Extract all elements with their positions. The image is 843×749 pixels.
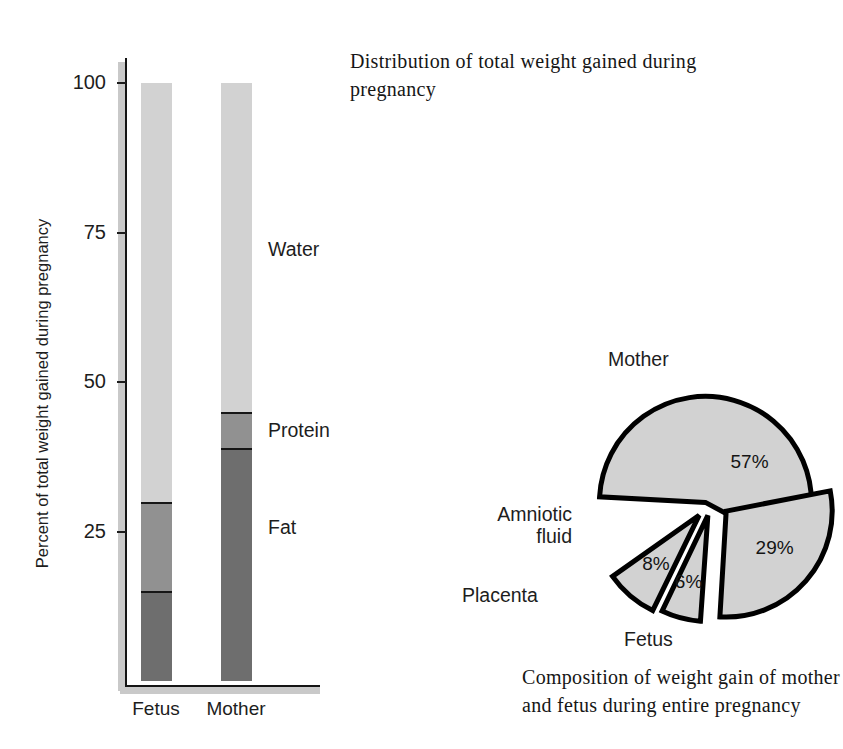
y-tick-label-75: 75 xyxy=(58,222,106,242)
y-tick-mark-75 xyxy=(117,232,126,234)
segment-label-water: Water xyxy=(268,238,319,261)
pie-label-mother: Mother xyxy=(608,348,669,370)
bar-segment-mother-fat xyxy=(221,448,252,681)
pie-value-mother: 57% xyxy=(731,451,769,472)
pie-label-amniotic-fluid: Amniotic fluid xyxy=(440,503,572,548)
x-axis-line xyxy=(125,685,320,687)
pie-value-placenta: 6% xyxy=(675,571,703,592)
pie-label-fetus: Fetus xyxy=(624,628,673,650)
bar-segment-fetus-water xyxy=(141,83,172,502)
bar-segment-fetus-protein xyxy=(141,502,172,592)
y-tick-mark-100 xyxy=(117,82,126,84)
bar-segment-fetus-fat xyxy=(141,591,172,681)
axis-shadow-vertical xyxy=(118,62,125,691)
axis-shadow-horizontal xyxy=(120,687,320,694)
bar-segment-mother-water xyxy=(221,83,252,412)
pie-value-amniotic-fluid: 8% xyxy=(642,553,670,574)
stacked-bar-chart: Percent of total weight gained during pr… xyxy=(0,0,340,749)
bar-category-label-mother: Mother xyxy=(176,698,296,720)
pie-caption: Composition of weight gain of mother and… xyxy=(522,664,843,719)
y-tick-mark-25 xyxy=(117,531,126,533)
y-axis-line xyxy=(125,58,127,687)
y-axis-title: Percent of total weight gained during pr… xyxy=(33,184,52,604)
chart-title: Distribution of total weight gained duri… xyxy=(350,48,780,103)
bar-mother xyxy=(221,83,252,681)
segment-label-fat: Fat xyxy=(268,516,296,539)
bar-segment-mother-protein xyxy=(221,412,252,448)
bar-fetus xyxy=(141,83,172,681)
pie-value-fetus: 29% xyxy=(756,537,794,558)
pie-label-placenta: Placenta xyxy=(462,584,538,606)
y-tick-mark-50 xyxy=(117,381,126,383)
segment-label-protein: Protein xyxy=(268,419,330,442)
pie-chart: 57%29%6%8% Mother Fetus Placenta Amnioti… xyxy=(440,360,843,670)
y-tick-label-100: 100 xyxy=(58,72,106,92)
y-tick-label-50: 50 xyxy=(58,371,106,391)
y-tick-label-25: 25 xyxy=(58,521,106,541)
